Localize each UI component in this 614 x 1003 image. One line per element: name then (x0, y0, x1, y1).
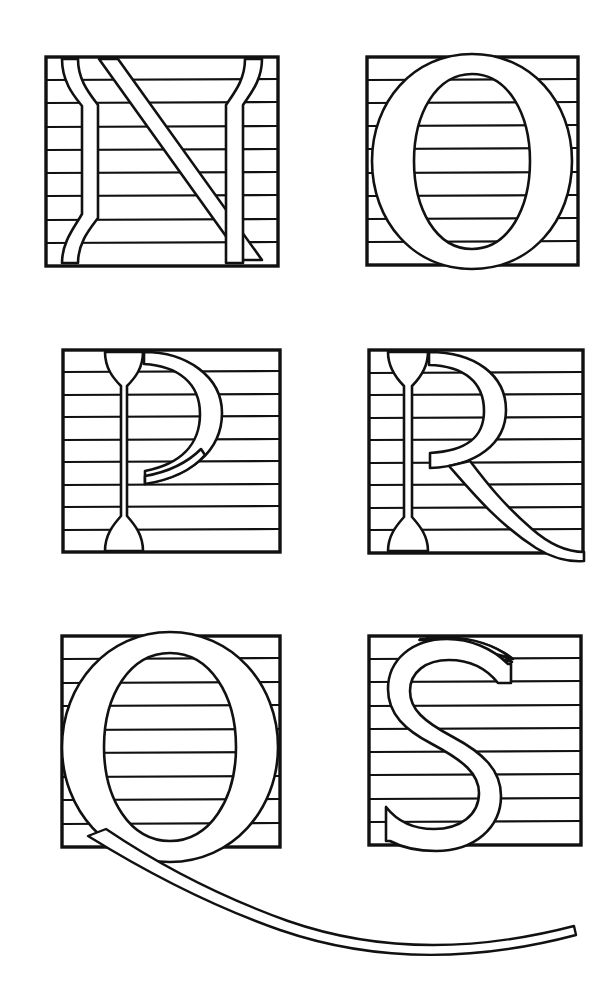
rule-line (63, 658, 279, 659)
rule-line (370, 798, 580, 799)
rule-line (64, 439, 279, 440)
rule-line (64, 484, 279, 485)
rule-line (370, 462, 582, 463)
rule-line (370, 417, 582, 418)
rule-line (368, 79, 577, 80)
specimen-sheet (0, 0, 614, 1003)
rule-line (64, 506, 279, 507)
rule-line (368, 241, 577, 242)
rule-line (64, 529, 279, 530)
rule-line (370, 728, 580, 729)
letter-specimen-artwork (0, 0, 614, 1003)
rule-line (64, 416, 279, 417)
rule-line (64, 394, 279, 395)
rule-line (370, 394, 582, 395)
rule-line (370, 507, 582, 508)
